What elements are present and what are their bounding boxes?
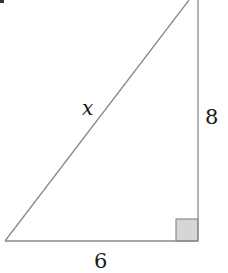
hypotenuse bbox=[5, 0, 189, 241]
vertical-leg-label: 8 bbox=[205, 105, 218, 129]
corner-fragment-mark bbox=[0, 0, 4, 3]
horizontal-leg-label: 6 bbox=[94, 249, 107, 273]
hypotenuse-label: x bbox=[82, 96, 93, 120]
right-triangle-diagram: x 8 6 bbox=[0, 0, 228, 273]
right-angle-marker bbox=[176, 219, 198, 241]
